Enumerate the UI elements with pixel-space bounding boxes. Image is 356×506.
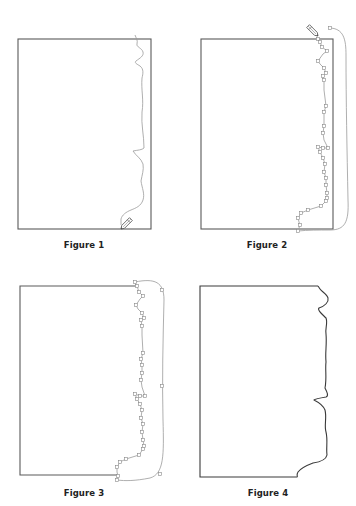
anchor-point[interactable] <box>321 156 324 159</box>
page-frame <box>18 39 151 229</box>
anchor-point[interactable] <box>296 229 299 232</box>
anchor-point[interactable] <box>299 211 302 214</box>
anchor-point[interactable] <box>118 460 121 463</box>
anchor-point[interactable] <box>328 26 331 29</box>
anchor-point[interactable] <box>139 357 142 360</box>
anchor-point[interactable] <box>138 402 141 405</box>
anchor-point[interactable] <box>143 394 146 397</box>
anchor-point[interactable] <box>140 371 143 374</box>
anchor-point[interactable] <box>321 74 324 77</box>
anchor-point[interactable] <box>296 216 299 219</box>
anchor-point[interactable] <box>139 416 142 419</box>
anchor-point[interactable] <box>141 351 144 354</box>
anchor-point[interactable] <box>318 40 321 43</box>
freehand-path[interactable] <box>121 35 144 225</box>
anchor-point[interactable] <box>141 422 144 425</box>
page-frame <box>200 286 318 477</box>
anchor-point[interactable] <box>141 438 144 441</box>
anchor-point[interactable] <box>324 199 327 202</box>
anchor-point[interactable] <box>316 145 319 148</box>
diagram-stage: Figure 1 Figure 2 Figure 3 Figure 4 <box>0 0 356 506</box>
anchor-point[interactable] <box>321 131 324 134</box>
anchor-point[interactable] <box>133 392 136 395</box>
anchor-point[interactable] <box>115 478 118 481</box>
anchor-point[interactable] <box>322 170 325 173</box>
figures-canvas <box>0 0 356 506</box>
anchor-point[interactable] <box>321 146 324 149</box>
anchor-point[interactable] <box>319 204 322 207</box>
pencil-icon <box>307 25 320 38</box>
anchor-point[interactable] <box>133 280 136 283</box>
anchor-point[interactable] <box>140 324 143 327</box>
anchor-point[interactable] <box>298 223 301 226</box>
anchor-point[interactable] <box>158 472 161 475</box>
anchor-point[interactable] <box>160 288 163 291</box>
anchor-point[interactable] <box>134 303 137 306</box>
anchor-point[interactable] <box>320 45 323 48</box>
caption-figure-3: Figure 3 <box>64 488 105 498</box>
caption-figure-4: Figure 4 <box>248 488 289 498</box>
anchor-point[interactable] <box>140 430 143 433</box>
anchor-point[interactable] <box>322 110 325 113</box>
anchor-point[interactable] <box>141 294 144 297</box>
figure-3 <box>20 280 164 481</box>
anchor-point[interactable] <box>135 284 138 287</box>
anchor-point[interactable] <box>137 290 140 293</box>
caption-figure-1: Figure 1 <box>64 240 105 250</box>
anchor-point[interactable] <box>325 49 328 52</box>
anchor-point[interactable] <box>139 378 142 381</box>
anchor-point[interactable] <box>325 191 328 194</box>
anchor-point[interactable] <box>115 465 118 468</box>
figure-2 <box>201 25 348 233</box>
figure-4 <box>200 286 328 477</box>
anchor-point[interactable] <box>322 124 325 127</box>
anchor-point[interactable] <box>306 208 309 211</box>
anchor-point[interactable] <box>316 59 319 62</box>
figure-1 <box>18 35 151 230</box>
torn-edge-path[interactable] <box>297 286 328 477</box>
caption-figure-2: Figure 2 <box>247 240 288 250</box>
anchor-point[interactable] <box>322 66 325 69</box>
selection-loop-path[interactable] <box>298 28 348 231</box>
anchor-point[interactable] <box>322 78 325 81</box>
anchor-point[interactable] <box>116 474 119 477</box>
anchor-point[interactable] <box>140 363 143 366</box>
anchor-point[interactable] <box>139 318 142 321</box>
anchor-point[interactable] <box>324 176 327 179</box>
anchor-point[interactable] <box>323 162 326 165</box>
anchor-point[interactable] <box>324 104 327 107</box>
anchor-point[interactable] <box>140 311 143 314</box>
anchor-point[interactable] <box>124 457 127 460</box>
page-frame <box>20 286 136 475</box>
anchor-point[interactable] <box>324 183 327 186</box>
anchor-point[interactable] <box>140 408 143 411</box>
anchor-point[interactable] <box>137 453 140 456</box>
anchor-point[interactable] <box>135 397 138 400</box>
page-frame <box>201 39 333 229</box>
anchor-point[interactable] <box>318 150 321 153</box>
anchor-point[interactable] <box>160 384 163 387</box>
anchor-point[interactable] <box>141 447 144 450</box>
anchor-point[interactable] <box>326 146 329 149</box>
